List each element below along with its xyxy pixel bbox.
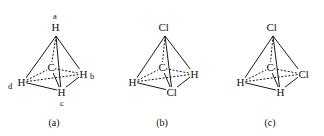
structure-b: Cl C H H Cl (b) <box>108 0 216 136</box>
position-label-a-top: a <box>53 12 57 21</box>
atom-c-top: Cl <box>266 22 277 33</box>
edge-top-bottom <box>56 36 61 91</box>
atom-a-center: C <box>47 62 55 73</box>
atom-b-bottom: Cl <box>166 87 177 98</box>
atom-c-left: H <box>236 77 245 88</box>
edge-left-bottom <box>23 82 61 91</box>
tetrahedral-structures-figure: a H C H d H b H c (a) Cl C H H Cl <box>0 0 324 136</box>
caption-b: (b) <box>108 118 216 128</box>
position-label-a-bottom: c <box>60 99 64 108</box>
edge-top-left <box>242 36 273 82</box>
position-label-a-left: d <box>8 82 12 91</box>
edge-left-bottom <box>242 82 280 91</box>
atom-c-right: Cl <box>298 69 309 80</box>
atom-c-center: C <box>266 62 274 73</box>
atom-a-right: H <box>79 69 88 80</box>
structure-a: a H C H d H b H c (a) <box>0 0 108 136</box>
edge-top-left <box>134 36 165 82</box>
caption-c: (c) <box>216 118 324 128</box>
atom-b-right: H <box>190 69 199 80</box>
atom-b-center: C <box>158 62 166 73</box>
caption-a: (a) <box>0 118 108 128</box>
atom-a-top: H <box>51 22 60 33</box>
atom-c-bottom: H <box>276 87 285 98</box>
atom-a-left: H <box>17 77 26 88</box>
atom-a-bottom: H <box>57 87 66 98</box>
position-label-a-right: b <box>90 72 94 81</box>
structure-c: Cl C H Cl H (c) <box>216 0 324 136</box>
atom-b-left: H <box>128 77 137 88</box>
edge-top-left <box>23 36 56 82</box>
atom-b-top: Cl <box>158 22 169 33</box>
